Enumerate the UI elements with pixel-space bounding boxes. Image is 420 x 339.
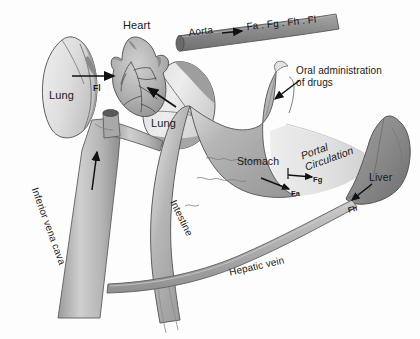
heart-shape (111, 37, 168, 117)
label-heart: Heart (123, 19, 150, 32)
diagram-canvas (0, 0, 420, 339)
oral-line-2: of drugs (296, 77, 333, 88)
label-stomach: Stomach (237, 155, 279, 167)
anatomical-diagram: Heart Lung Lung Fl Aorta Fa . Fg . Fh . … (0, 0, 420, 339)
hepatic-vein-shape (107, 200, 357, 293)
oral-line-1: Oral administration (296, 65, 382, 76)
label-fl: Fl (93, 84, 101, 94)
label-fa: Fa (291, 190, 300, 199)
label-lung-left: Lung (49, 89, 74, 102)
label-oral-administration: Oral administration of drugs (296, 65, 382, 88)
lung-left-shape (42, 37, 97, 138)
label-lung-right: Lung (151, 117, 176, 130)
label-fg: Fg (313, 176, 322, 185)
label-liver: Liver (369, 171, 392, 183)
